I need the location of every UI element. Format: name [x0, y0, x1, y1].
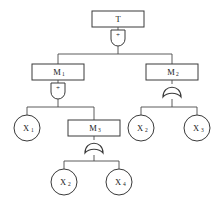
- or-gate-icon: [85, 143, 103, 153]
- node-x1[interactable]: X 1: [14, 115, 40, 141]
- node-x3-subscript: 3: [201, 127, 204, 133]
- node-x2-right-label: X: [137, 123, 143, 133]
- gate-and-t[interactable]: +: [111, 27, 125, 46]
- node-x4-subscript: 4: [123, 181, 126, 187]
- gate-and-m1-symbol: +: [56, 84, 60, 92]
- node-m3-subscript: 3: [98, 127, 101, 133]
- node-x4[interactable]: X 4: [106, 169, 132, 195]
- node-x4-label: X: [115, 177, 121, 187]
- gate-or-m3[interactable]: [85, 136, 103, 153]
- gate-and-t-symbol: +: [116, 31, 120, 39]
- node-x3[interactable]: X 3: [184, 115, 210, 141]
- connector-group-m1: [27, 99, 94, 120]
- node-m1-label: M: [53, 67, 61, 77]
- node-x2-bottom-label: X: [60, 177, 66, 187]
- node-x2-bottom-subscript: 2: [68, 181, 71, 187]
- node-m2[interactable]: M 2: [146, 64, 198, 80]
- node-x2-right-subscript: 2: [145, 127, 148, 133]
- node-m2-label: M: [167, 67, 175, 77]
- connector-group-m3: [64, 155, 119, 169]
- node-m3-label: M: [89, 123, 97, 133]
- node-m1[interactable]: M 1: [32, 64, 84, 80]
- node-x2-right[interactable]: X 2: [128, 115, 154, 141]
- node-x2-bottom[interactable]: X 2: [51, 169, 77, 195]
- node-t[interactable]: T: [92, 11, 144, 27]
- node-x3-label: X: [193, 123, 199, 133]
- gate-or-m2[interactable]: [163, 80, 181, 97]
- gate-and-m1[interactable]: +: [51, 80, 65, 99]
- node-m2-subscript: 2: [176, 71, 179, 77]
- node-x1-label: X: [23, 123, 29, 133]
- node-t-label: T: [115, 14, 121, 24]
- fault-tree-canvas: T + M 1 + M 2: [0, 0, 224, 204]
- node-m1-subscript: 1: [62, 71, 65, 77]
- node-m3[interactable]: M 3: [68, 120, 120, 136]
- connector-group-m2: [141, 99, 197, 115]
- fault-tree-diagram: T + M 1 + M 2: [0, 0, 224, 204]
- node-x1-subscript: 1: [31, 127, 34, 133]
- connector-group-top: [58, 46, 172, 64]
- or-gate-icon: [163, 87, 181, 97]
